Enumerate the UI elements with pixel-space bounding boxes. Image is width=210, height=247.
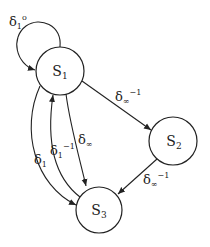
node-s1-label: S1 bbox=[52, 63, 67, 81]
edge-label-s1-s3-inf: δ∞ bbox=[78, 133, 93, 149]
node-s3-label: S3 bbox=[91, 202, 106, 220]
edge-label-s2-s3: δ∞−1 bbox=[143, 172, 169, 189]
edge-label-s1-s3-delta1: δ1 bbox=[34, 153, 47, 169]
edge-label-s3-s1-delta1-inv: δ1−1 bbox=[50, 143, 75, 160]
edge-label-s1-self: δ1o bbox=[9, 14, 27, 31]
node-s2-label: S2 bbox=[166, 133, 181, 151]
edge-label-s1-s2: δ∞−1 bbox=[115, 89, 141, 106]
